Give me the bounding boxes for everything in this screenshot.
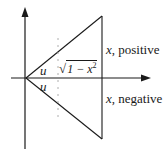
sqrt-expression-text: 1 − x bbox=[67, 62, 92, 76]
triangle-lower-side bbox=[26, 78, 102, 139]
x-axis-arrowhead-icon bbox=[141, 75, 151, 82]
x-negative-text: , negative bbox=[112, 91, 163, 106]
y-axis-arrowhead-icon bbox=[22, 7, 29, 17]
angle-label-upper: u bbox=[40, 64, 47, 77]
x-negative-label: x, negative bbox=[106, 92, 162, 105]
x-positive-text: , positive bbox=[112, 42, 160, 57]
sqrt-icon: √ bbox=[59, 62, 66, 75]
sqrt-expression: √1 − x2 bbox=[59, 60, 97, 75]
sqrt-exponent: 2 bbox=[93, 61, 97, 70]
angle-label-lower: u bbox=[40, 80, 47, 93]
x-positive-label: x, positive bbox=[106, 43, 159, 56]
